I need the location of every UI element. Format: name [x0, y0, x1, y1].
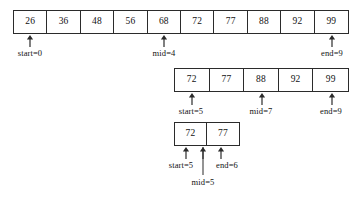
- array-cell: 77: [210, 69, 245, 91]
- start-arrow-row-2: [188, 93, 195, 105]
- array-cell: 88: [244, 69, 279, 91]
- mid-label-row-3: mid=5: [192, 178, 215, 187]
- array-cell: 92: [279, 69, 314, 91]
- array-cell: 77: [214, 11, 247, 33]
- mid-label-row-2: mid=7: [250, 107, 273, 116]
- array-cell: 36: [47, 11, 80, 33]
- array-cell: 99: [313, 69, 348, 91]
- mid-arrow-row-2: [258, 93, 265, 105]
- array-row-1: 26 36 48 56 68 72 77 88 92 99: [13, 10, 349, 34]
- array-cell: 99: [315, 11, 348, 33]
- start-arrow-row-1: [26, 35, 33, 47]
- start-label-row-1: start=0: [18, 49, 42, 58]
- binary-search-diagram: 26 36 48 56 68 72 77 88 92 99 start=0 mi…: [0, 0, 362, 199]
- array-row-2: 72 77 88 92 99: [174, 68, 349, 92]
- end-label-row-1: end=9: [321, 49, 343, 58]
- end-arrow-row-1: [329, 35, 336, 47]
- start-label-row-3: start=5: [169, 161, 193, 170]
- array-cell: 56: [114, 11, 147, 33]
- start-arrow-row-3: [183, 147, 190, 159]
- array-cell: 72: [181, 11, 214, 33]
- array-cell: 88: [248, 11, 281, 33]
- array-cell: 48: [81, 11, 114, 33]
- array-cell: 72: [175, 69, 210, 91]
- mid-label-row-1: mid=4: [153, 49, 176, 58]
- end-label-row-3: end=6: [216, 161, 238, 170]
- end-label-row-2: end=9: [320, 107, 342, 116]
- array-cell: 92: [281, 11, 314, 33]
- end-arrow-row-3: [218, 147, 225, 159]
- array-cell: 72: [175, 123, 207, 145]
- mid-arrow-row-1: [161, 35, 168, 47]
- array-row-3: 72 77: [174, 122, 240, 146]
- array-cell: 26: [14, 11, 47, 33]
- array-cell: 68: [148, 11, 181, 33]
- mid-connector-row-3: [203, 147, 204, 175]
- end-arrow-row-2: [328, 93, 335, 105]
- array-cell: 77: [207, 123, 239, 145]
- start-label-row-2: start=5: [179, 107, 203, 116]
